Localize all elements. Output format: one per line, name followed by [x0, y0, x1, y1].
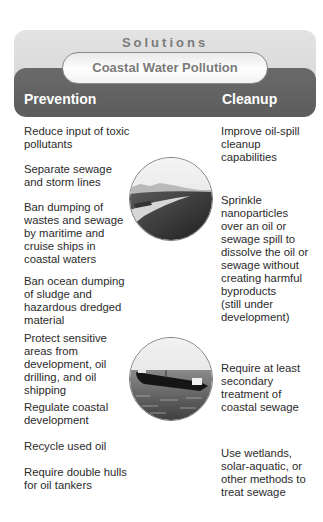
solutions-header-card: Solutions Prevention Cleanup Coastal Wat…: [14, 30, 316, 117]
header-subtitle: Coastal Water Pollution: [62, 52, 268, 84]
coastline-photo: [129, 157, 213, 241]
header-title: Solutions: [14, 35, 316, 50]
cleanup-item: Sprinkle nanoparticles over an oil or se…: [221, 194, 321, 324]
cleanup-heading: Cleanup: [222, 91, 277, 107]
cleanup-item: Require at least secondary treatment of …: [221, 362, 321, 414]
cleanup-item: Use wetlands, solar-aquatic, or other me…: [221, 447, 321, 499]
prevention-item: Require double hulls for oil tankers: [24, 466, 134, 492]
prevention-heading: Prevention: [24, 91, 96, 107]
prevention-item: Protect sensitive areas from development…: [24, 332, 134, 397]
prevention-item: Ban dumping of wastes and sewage by mari…: [24, 201, 134, 266]
prevention-item: Reduce input of toxic pollutants: [24, 125, 134, 151]
cleanup-item: Improve oil-spill cleanup capabilities: [221, 125, 321, 164]
oil-tanker-photo: [129, 337, 213, 421]
prevention-item: Separate sewage and storm lines: [24, 163, 134, 189]
prevention-item: Regulate coastal development: [24, 401, 134, 427]
prevention-item: Recycle used oil: [24, 440, 134, 453]
prevention-item: Ban ocean dumping of sludge and hazardou…: [24, 275, 134, 327]
